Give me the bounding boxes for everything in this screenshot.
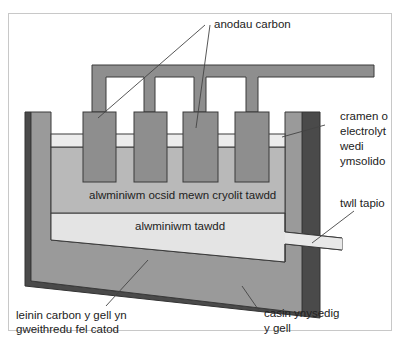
label-molten-aluminium: alwminiwm tawdd xyxy=(135,219,225,234)
electrolytic-cell-diagram xyxy=(0,0,401,346)
label-crust-line1: cramen o xyxy=(340,109,388,124)
label-crust-line3: wedi xyxy=(340,139,364,154)
anode-3 xyxy=(183,112,218,182)
anode-busbar xyxy=(92,65,374,112)
label-tap-hole: twll tapio xyxy=(340,196,385,211)
label-casing-line2: y gell xyxy=(264,321,291,336)
label-crust-line4: ymsolido xyxy=(340,154,385,169)
label-casing-line1: casin ynysedig xyxy=(264,306,339,321)
anode-4 xyxy=(235,112,269,182)
label-electrolyte: alwminiwm ocsid mewn cryolit tawdd xyxy=(89,188,276,203)
label-crust-line2: electrolyt xyxy=(340,124,386,139)
label-lining-line2: gweithredu fel catod xyxy=(16,322,119,337)
label-lining-line1: leinin carbon y gell yn xyxy=(16,308,127,323)
anode-2 xyxy=(134,112,167,182)
anode-1 xyxy=(83,112,116,182)
label-carbon-anodes: anodau carbon xyxy=(214,17,291,32)
